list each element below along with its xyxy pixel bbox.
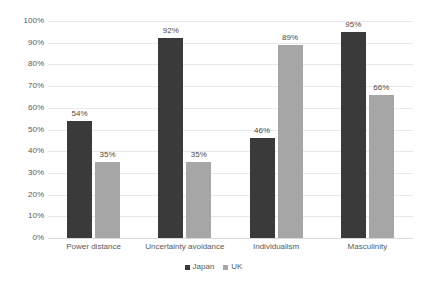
bar-value-label: 66% <box>373 84 389 92</box>
bar-japan-uncertainty-avoidance <box>158 38 183 238</box>
bar-value-label: 95% <box>345 21 361 29</box>
legend-swatch-icon <box>185 265 190 270</box>
bar-value-label: 46% <box>254 127 270 135</box>
y-axis-tick-label: 100% <box>0 17 44 25</box>
bar-japan-individualism <box>250 138 275 238</box>
y-axis-tick-label: 80% <box>0 60 44 68</box>
bar-japan-power-distance <box>67 121 92 238</box>
y-axis-tick-label: 10% <box>0 212 44 220</box>
legend-item-uk[interactable]: UK <box>223 263 242 271</box>
x-axis-category-label: Individualism <box>253 243 299 251</box>
y-axis-tick-label: 0% <box>0 234 44 242</box>
bar-value-label: 92% <box>163 27 179 35</box>
bar-value-label: 35% <box>191 151 207 159</box>
y-axis: 0%10%20%30%40%50%60%70%80%90%100% <box>0 21 44 238</box>
bar-uk-power-distance <box>95 162 120 238</box>
y-axis-tick-label: 40% <box>0 147 44 155</box>
x-axis-category-label: Masculinity <box>348 243 388 251</box>
legend-label: UK <box>231 263 242 271</box>
y-axis-tick-label: 60% <box>0 104 44 112</box>
x-axis-category-label: Uncertainty avoidance <box>145 243 224 251</box>
bar-value-label: 35% <box>100 151 116 159</box>
y-axis-tick-label: 50% <box>0 126 44 134</box>
bar-value-label: 89% <box>282 34 298 42</box>
legend-label: Japan <box>193 263 215 271</box>
legend-item-japan[interactable]: Japan <box>185 263 215 271</box>
y-axis-tick-label: 30% <box>0 169 44 177</box>
gridline <box>48 238 413 239</box>
y-axis-tick-label: 20% <box>0 191 44 199</box>
legend: JapanUK <box>0 263 427 271</box>
y-axis-tick-label: 90% <box>0 39 44 47</box>
bar-uk-individualism <box>278 45 303 238</box>
bars-layer: 54%35%92%35%46%89%95%66% <box>48 21 413 238</box>
bar-japan-masculinity <box>341 32 366 238</box>
bar-chart: 0%10%20%30%40%50%60%70%80%90%100% 54%35%… <box>0 0 427 288</box>
legend-swatch-icon <box>223 265 228 270</box>
bar-uk-uncertainty-avoidance <box>186 162 211 238</box>
bar-value-label: 54% <box>72 110 88 118</box>
x-axis: Power distanceUncertainty avoidanceIndiv… <box>48 243 413 257</box>
x-axis-category-label: Power distance <box>66 243 121 251</box>
y-axis-tick-label: 70% <box>0 82 44 90</box>
bar-uk-masculinity <box>369 95 394 238</box>
